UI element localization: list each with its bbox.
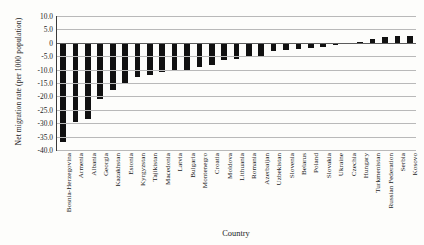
bar [221, 43, 227, 61]
gridline [57, 43, 416, 44]
x-axis-tick-label: Azerbaijan [263, 153, 271, 185]
x-axis-tick-label: Bulgaria [189, 153, 197, 178]
gridline [57, 96, 416, 97]
x-axis-tick-label: Uzbekistan [275, 153, 283, 185]
gridline [57, 123, 416, 124]
plot-area: 10.05.00-5.0-10.0-15.0-20.0-25.0-30.0-35… [56, 16, 416, 151]
x-axis-tick-label: Albania [90, 153, 98, 176]
x-axis-tick-label: Poland [312, 153, 320, 173]
x-axis-tick-label: Macedonia [164, 153, 172, 185]
x-axis-tick-label: Croatia [213, 153, 221, 174]
x-axis-tick-label: Estonia [127, 153, 135, 175]
y-axis-tick-label: 10.0 [40, 12, 53, 21]
gridline [57, 70, 416, 71]
x-axis-tick-label: Bosnia-Herzegovina [65, 153, 73, 212]
x-axis-tick-label: Slovenia [288, 153, 296, 178]
bar [258, 43, 264, 56]
x-axis-title: Country [56, 229, 416, 238]
x-axis-tick-label: Kazakhstan [114, 153, 122, 187]
bar [209, 43, 215, 66]
bar [246, 43, 252, 57]
y-axis-tick-label: -15.0 [38, 79, 53, 88]
gridline [57, 137, 416, 138]
y-axis-tick-label: -40.0 [38, 146, 53, 155]
bar [97, 43, 103, 99]
x-axis-tick-label: Serbia [399, 153, 407, 171]
x-axis-tick-label: Tajikistan [151, 153, 159, 181]
gridline [57, 110, 416, 111]
bar [135, 43, 141, 77]
y-axis-tick-label: -35.0 [38, 132, 53, 141]
x-axis-tick-label: Ukraine [337, 153, 345, 176]
y-axis-tick-label: -25.0 [38, 105, 53, 114]
x-axis-tick-label: Belarus [300, 153, 308, 175]
y-axis-tick-label: -10.0 [38, 65, 53, 74]
gridline [57, 83, 416, 84]
x-axis-tick-label: Slovakia [325, 153, 333, 178]
x-axis-tick-label: Lithuania [238, 153, 246, 181]
bar [60, 43, 66, 142]
y-axis-tick-label: 0 [49, 38, 53, 47]
x-axis-tick-label: Russian Federation [387, 153, 395, 208]
x-axis-tick-label: Georgia [102, 153, 110, 176]
gridline [57, 29, 416, 30]
gridline [57, 16, 416, 17]
gridline [57, 56, 416, 57]
x-axis-tick-label: Turkmenistan [374, 153, 382, 193]
bar [271, 43, 277, 51]
x-axis-tick-labels: Bosnia-HerzegovinaArmeniaAlbaniaGeorgiaK… [56, 153, 416, 231]
x-axis-tick-label: Montenegro [201, 153, 209, 188]
x-axis-tick-label: Romania [250, 153, 258, 179]
x-axis-tick-label: Moldova [226, 153, 234, 179]
x-axis-tick-label: Kosovo [411, 153, 419, 175]
bar [283, 43, 289, 50]
x-axis-tick-label: Czechia [350, 153, 358, 176]
bar [85, 43, 91, 119]
gridline [57, 150, 416, 151]
y-axis-tick-label: -5.0 [41, 52, 53, 61]
x-axis-tick-label: Latvia [176, 153, 184, 171]
bar [197, 43, 203, 67]
x-axis-tick-label: Hungary [362, 153, 370, 178]
x-axis-tick-label: Armenia [77, 153, 85, 178]
y-axis-tick-label: -20.0 [38, 92, 53, 101]
y-axis-tick-label: -30.0 [38, 119, 53, 128]
x-axis-tick-label: Kyrgyzstan [139, 153, 147, 186]
bar [122, 43, 128, 83]
bar [159, 43, 165, 72]
y-axis-tick-label: 5.0 [44, 25, 53, 34]
y-axis-title: Net migration rate (per 1000 population) [14, 7, 23, 157]
migration-rate-bar-chart: Net migration rate (per 1000 population)… [0, 0, 424, 245]
